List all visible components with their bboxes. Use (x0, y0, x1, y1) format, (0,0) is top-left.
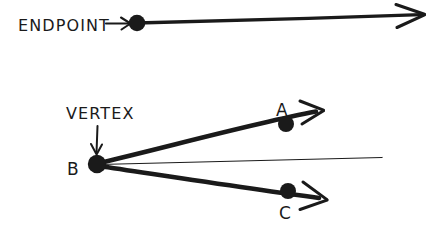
point-a-label: A (276, 100, 289, 120)
geometry-figure: ENDPOINT VERTEX B A (0, 0, 434, 231)
endpoint-label: ENDPOINT (18, 16, 110, 35)
endpoint-dot (129, 15, 146, 32)
point-b-label: B (67, 159, 80, 179)
vertex-b-dot (88, 155, 106, 173)
point-c-label: C (279, 203, 292, 223)
vertex-label: VERTEX (66, 104, 134, 123)
point-c-dot (280, 183, 296, 199)
